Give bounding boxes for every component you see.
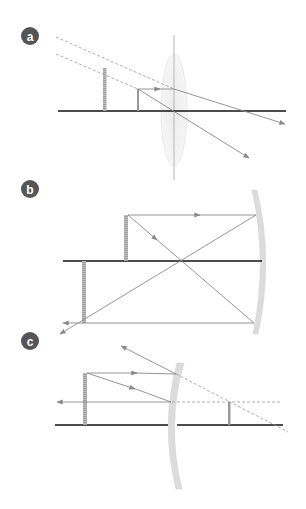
panel-b: b <box>21 180 266 334</box>
ray-b-reflect-through-focus <box>60 215 256 334</box>
concave-mirror <box>252 190 266 334</box>
ray-c-parallel-in-cont <box>135 373 176 374</box>
virtual-ray-a-2 <box>56 54 138 89</box>
badge-a-label: a <box>27 30 34 44</box>
ray-b-diagonal-cont <box>155 238 254 323</box>
badge-c-label: c <box>27 335 34 349</box>
ray-b-diagonal-in <box>128 215 157 240</box>
object-a <box>137 89 139 111</box>
badge-b-label: b <box>26 183 33 197</box>
badge-a: a <box>21 27 39 45</box>
ray-a-refracted <box>174 89 285 124</box>
ray-c-diagonal-cont <box>133 388 171 402</box>
ray-c-diagonal-in <box>87 373 135 389</box>
badge-b: b <box>21 180 39 198</box>
ray-c-reflected-up <box>121 346 176 374</box>
virtual-image-c <box>228 402 231 425</box>
panel-a: a <box>21 27 286 180</box>
ray-diagram-figure: a b <box>0 0 306 509</box>
virtual-ray-c-1 <box>176 374 288 432</box>
real-image-b <box>82 261 86 323</box>
badge-c: c <box>21 332 39 350</box>
object-b <box>124 215 128 261</box>
panel-c: c <box>21 332 288 489</box>
convex-mirror <box>168 363 184 489</box>
object-c <box>83 373 87 425</box>
virtual-ray-a-1 <box>56 37 174 89</box>
ray-a-center <box>138 89 249 158</box>
